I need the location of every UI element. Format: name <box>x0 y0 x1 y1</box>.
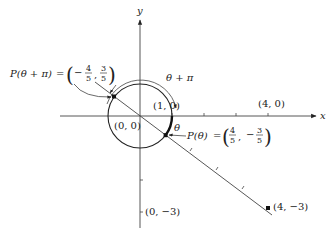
y-axis-label: y <box>136 5 143 16</box>
point-four-neg3 <box>266 206 270 210</box>
p-theta-pi-pointer <box>74 84 111 97</box>
svg-text:P(θ + π): P(θ + π) <box>9 68 52 79</box>
svg-text:−: − <box>74 67 82 78</box>
zero-neg3-label: (0, −3) <box>145 206 180 217</box>
origin-label: (0, 0) <box>114 120 141 131</box>
svg-text:5: 5 <box>86 74 91 83</box>
svg-text:): ) <box>264 125 272 149</box>
theta-label: θ <box>174 122 180 133</box>
one-zero-label: (1, 0) <box>153 100 180 111</box>
svg-text:=: = <box>56 68 64 79</box>
point-p-theta-pi <box>112 95 116 99</box>
point-p-theta <box>164 133 168 137</box>
svg-text:,: , <box>238 131 241 142</box>
y-axis: y <box>136 5 143 228</box>
svg-text:5: 5 <box>230 136 235 145</box>
x-axis: x <box>60 110 326 121</box>
svg-text:(: ( <box>222 125 230 149</box>
four-neg3-label: (4, −3) <box>273 201 308 212</box>
svg-text:,: , <box>94 69 97 80</box>
theta-arc <box>166 116 172 135</box>
p-theta-label: P(θ) = ( 4 5 , − 3 5 ) <box>186 125 272 149</box>
svg-text:3: 3 <box>257 126 262 135</box>
ray-ticks <box>190 148 244 189</box>
svg-text:P(θ): P(θ) <box>186 130 208 141</box>
x-axis-label: x <box>320 110 326 121</box>
four-zero-label: (4, 0) <box>258 98 285 109</box>
svg-text:5: 5 <box>257 136 262 145</box>
p-theta-pointer <box>169 135 186 136</box>
svg-text:4: 4 <box>86 64 91 73</box>
theta-plus-pi-label: θ + π <box>166 72 194 83</box>
svg-text:): ) <box>108 63 116 87</box>
unit-circle-diagram: x y (0, 0) (1, 0) (4, 0) (0, −3) (4, −3)… <box>0 0 334 241</box>
svg-text:4: 4 <box>230 126 235 135</box>
svg-text:−: − <box>246 129 254 140</box>
ray-line <box>95 82 272 215</box>
svg-text:=: = <box>213 130 221 141</box>
svg-text:3: 3 <box>101 64 106 73</box>
svg-text:5: 5 <box>101 74 106 83</box>
p-theta-pi-label: P(θ + π) = ( − 4 5 , 3 5 ) <box>9 63 116 87</box>
svg-text:(: ( <box>66 63 74 87</box>
